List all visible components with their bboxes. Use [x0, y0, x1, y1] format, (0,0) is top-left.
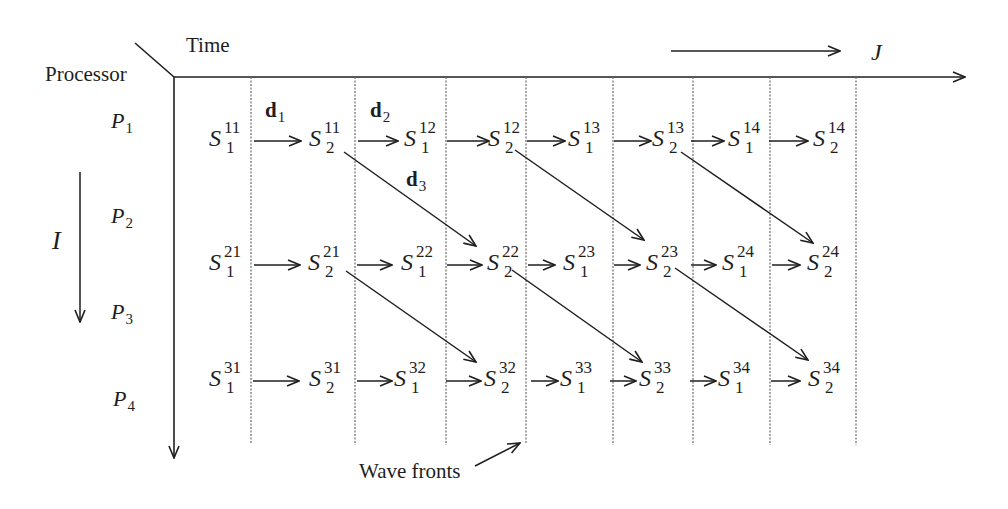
- wave-front-lines: [251, 77, 856, 445]
- statement-subscript: 2: [663, 263, 672, 280]
- statement-superscript: 33: [654, 359, 671, 376]
- dependence-d3-label: d3: [406, 169, 426, 194]
- statement-base: S: [209, 250, 221, 274]
- processor-letter: P: [111, 299, 124, 324]
- statement-base: S: [309, 366, 321, 390]
- statement-superscript: 14: [743, 119, 760, 136]
- statement-base: S: [309, 126, 321, 150]
- statement-superscript: 32: [499, 359, 516, 376]
- processor-index: 3: [125, 311, 133, 327]
- statement-subscript: 2: [830, 139, 839, 156]
- statement-subscript: 1: [585, 139, 594, 156]
- processor-letter: P: [113, 386, 126, 411]
- statement-subscript: 1: [735, 379, 744, 396]
- statement-superscript: 23: [578, 243, 595, 260]
- statement-superscript: 13: [583, 119, 600, 136]
- statement-subscript: 2: [656, 379, 665, 396]
- statement-superscript: 24: [822, 243, 839, 260]
- statement-subscript: 2: [326, 379, 335, 396]
- processor-index: 2: [125, 215, 133, 231]
- dependence-d1-label: d1: [265, 100, 285, 125]
- statement-superscript: 23: [661, 243, 678, 260]
- statement-base: S: [718, 366, 730, 390]
- dependence-index: 1: [278, 109, 286, 125]
- statement-base: S: [722, 250, 734, 274]
- statement-base: S: [728, 126, 740, 150]
- statement-base: S: [209, 126, 221, 150]
- statement-subscript: 1: [745, 139, 754, 156]
- statement-superscript: 34: [733, 359, 750, 376]
- statement-subscript: 2: [505, 139, 514, 156]
- statement-superscript: 21: [323, 243, 340, 260]
- processor-letter: P: [111, 108, 124, 133]
- i-axis-label: I: [52, 228, 61, 254]
- statement-base: S: [488, 126, 500, 150]
- statement-subscript: 2: [824, 263, 833, 280]
- statement-base: S: [209, 366, 221, 390]
- statement-subscript: 2: [326, 139, 335, 156]
- d3-arrow: [346, 271, 476, 362]
- statement-subscript: 1: [421, 139, 430, 156]
- statement-base: S: [646, 250, 658, 274]
- statement-superscript: 32: [409, 359, 426, 376]
- statement-subscript: 2: [825, 379, 834, 396]
- statement-superscript: 12: [503, 119, 520, 136]
- statement-subscript: 1: [226, 139, 235, 156]
- processor-p3-label: P3: [111, 301, 133, 327]
- statement-superscript: 34: [823, 359, 840, 376]
- dependence-index: 3: [419, 178, 427, 194]
- statement-subscript: 1: [411, 379, 420, 396]
- statement-superscript: 21: [224, 243, 241, 260]
- statement-base: S: [484, 366, 496, 390]
- processor-p1-label: P1: [111, 110, 133, 136]
- wavefront-schedule-diagram: Time Processor J I P1 P2 P3 P4 d1 d2 d3 …: [0, 0, 1008, 509]
- statement-subscript: 2: [325, 263, 334, 280]
- statement-base: S: [560, 366, 572, 390]
- statement-superscript: 11: [224, 119, 240, 136]
- dependence-d2-label: d2: [370, 100, 390, 125]
- statement-superscript: 22: [416, 243, 433, 260]
- dependence-letter: d: [370, 98, 382, 122]
- statement-base: S: [652, 126, 664, 150]
- statement-base: S: [401, 250, 413, 274]
- statement-subscript: 1: [577, 379, 586, 396]
- statement-base: S: [568, 126, 580, 150]
- statement-superscript: 13: [667, 119, 684, 136]
- statement-subscript: 1: [739, 263, 748, 280]
- statement-superscript: 12: [419, 119, 436, 136]
- statement-subscript: 1: [226, 379, 235, 396]
- processor-p4-label: P4: [113, 388, 135, 414]
- statement-base: S: [807, 250, 819, 274]
- statement-superscript: 33: [575, 359, 592, 376]
- d3-arrow: [681, 152, 813, 243]
- dependence-letter: d: [265, 98, 277, 122]
- statement-base: S: [308, 250, 320, 274]
- statement-base: S: [404, 126, 416, 150]
- d3-arrow: [512, 270, 642, 362]
- dependence-letter: d: [406, 167, 418, 191]
- statement-subscript: 2: [501, 379, 510, 396]
- processor-index: 1: [125, 120, 133, 136]
- statement-superscript: 22: [502, 243, 519, 260]
- d3-arrow: [515, 150, 644, 240]
- time-label: Time: [186, 35, 230, 56]
- statement-superscript: 31: [224, 359, 241, 376]
- processor-label: Processor: [45, 64, 127, 85]
- statement-base: S: [563, 250, 575, 274]
- statement-superscript: 31: [324, 359, 341, 376]
- statement-base: S: [639, 366, 651, 390]
- statement-base: S: [394, 366, 406, 390]
- statement-subscript: 1: [418, 263, 427, 280]
- statement-subscript: 1: [226, 263, 235, 280]
- statement-subscript: 1: [580, 263, 589, 280]
- statement-superscript: 11: [324, 119, 340, 136]
- processor-letter: P: [111, 203, 124, 228]
- statement-superscript: 24: [737, 243, 754, 260]
- corner-divider-line: [135, 43, 174, 77]
- wave-fronts-label: Wave fronts: [359, 461, 461, 482]
- statement-base: S: [487, 250, 499, 274]
- processor-p2-label: P2: [111, 205, 133, 231]
- statement-subscript: 2: [669, 139, 678, 156]
- d3-arrow: [675, 268, 808, 360]
- wave-fronts-pointer-arrow: [475, 443, 520, 466]
